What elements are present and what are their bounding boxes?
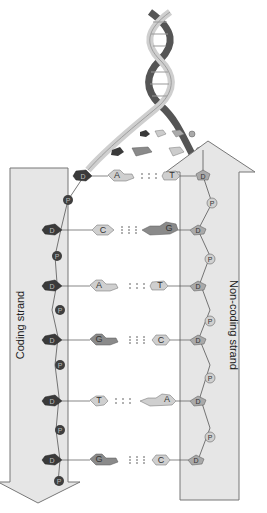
svg-text:D: D — [195, 398, 200, 405]
svg-text:D: D — [80, 173, 85, 180]
svg-text:P: P — [66, 197, 71, 204]
coding-strand-label: Coding strand — [14, 291, 26, 360]
svg-text:P: P — [57, 478, 62, 485]
svg-text:G: G — [165, 223, 172, 233]
svg-text:A: A — [96, 280, 102, 290]
svg-text:C: C — [158, 455, 165, 465]
svg-text:D: D — [49, 398, 54, 405]
svg-text:T: T — [96, 395, 102, 405]
dna-diagram: Coding strand Non-coding strand P P P P … — [0, 0, 267, 513]
svg-text:P: P — [208, 256, 213, 263]
svg-text:D: D — [195, 227, 200, 234]
svg-text:D: D — [200, 173, 205, 180]
svg-text:P: P — [58, 307, 63, 314]
svg-text:D: D — [49, 227, 54, 234]
helix-strand-light — [88, 12, 171, 170]
svg-text:P: P — [208, 375, 213, 382]
svg-text:P: P — [55, 253, 60, 260]
svg-text:C: C — [100, 225, 107, 235]
svg-text:T: T — [169, 170, 175, 180]
svg-text:P: P — [208, 434, 213, 441]
coding-strand-arrow: Coding strand — [0, 168, 80, 503]
double-helix — [88, 12, 204, 170]
svg-text:P: P — [58, 362, 63, 369]
svg-text:P: P — [210, 200, 215, 207]
svg-text:D: D — [195, 283, 200, 290]
noncoding-strand-label: Non-coding strand — [228, 280, 240, 370]
svg-text:G: G — [95, 334, 102, 344]
helix-strand-dark — [149, 12, 200, 170]
svg-text:A: A — [164, 394, 170, 404]
svg-text:D: D — [49, 457, 54, 464]
svg-text:G: G — [95, 454, 102, 464]
svg-text:D: D — [195, 337, 200, 344]
svg-text:D: D — [49, 337, 54, 344]
svg-text:D: D — [49, 283, 54, 290]
svg-text:D: D — [193, 457, 198, 464]
svg-text:P: P — [58, 427, 63, 434]
svg-text:C: C — [158, 335, 165, 345]
svg-text:T: T — [157, 280, 163, 290]
svg-text:P: P — [208, 318, 213, 325]
svg-text:A: A — [114, 170, 120, 180]
